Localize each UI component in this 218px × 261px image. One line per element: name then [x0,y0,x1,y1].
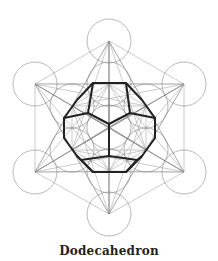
connecting-line [35,150,72,172]
connecting-line [146,150,184,172]
connecting-line [35,172,109,214]
connecting-line [109,41,184,84]
metatrons-cube-diagram [0,0,218,240]
connecting-line [146,106,184,172]
connecting-line [35,41,109,84]
dodecahedron-edge [88,113,109,124]
connecting-line [72,150,109,171]
figure-caption: Dodecahedron [0,244,218,258]
connecting-line [109,172,184,214]
connecting-line [109,150,146,171]
